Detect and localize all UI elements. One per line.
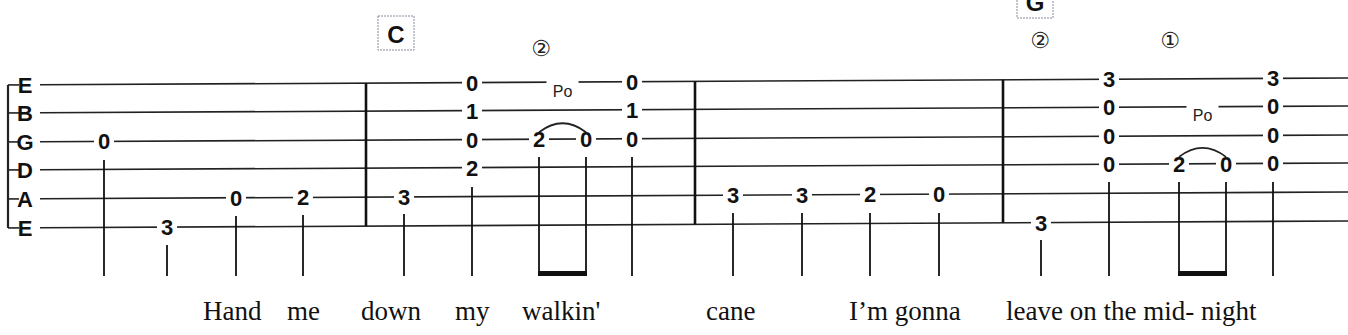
fret-number: 0: [1103, 152, 1115, 177]
fret-number: 1: [626, 98, 638, 123]
fret-number: 0: [466, 128, 478, 153]
fret-number: 3: [1267, 66, 1279, 91]
beam: [538, 271, 587, 276]
beam: [1178, 271, 1227, 276]
pulloff-label: Po: [553, 83, 573, 100]
fret-number: 2: [297, 185, 309, 210]
fret-number: 0: [626, 127, 638, 152]
fret-number: 0: [626, 70, 638, 95]
fret-number: 3: [1035, 211, 1047, 236]
pulloff-label: Po: [1193, 107, 1213, 124]
lyric-word: Hand: [203, 296, 262, 326]
chord-name: C: [387, 21, 404, 48]
fret-number: 0: [230, 186, 242, 211]
string-label: E: [18, 216, 33, 241]
fret-number: 3: [727, 183, 739, 208]
string-label: E: [18, 73, 33, 98]
lyric-word: cane: [706, 296, 755, 326]
fret-number: 1: [466, 99, 478, 124]
lyric-word: I’m gonna: [849, 296, 961, 326]
fret-number: 2: [466, 156, 478, 181]
chord-name: G: [1026, 0, 1045, 16]
fret-number: 0: [98, 129, 110, 154]
fret-number: 2: [1173, 152, 1185, 177]
fret-number: 0: [1220, 152, 1232, 177]
fret-number: 3: [796, 183, 808, 208]
string-number-marker: ②: [531, 36, 551, 61]
string-label: G: [16, 130, 33, 155]
tablature: EBGDAECG②②①03023010220010332033000203000…: [0, 0, 1348, 335]
fret-number: 3: [1103, 67, 1115, 92]
fret-number: 0: [1267, 94, 1279, 119]
string-label: D: [17, 158, 33, 183]
string-label: B: [17, 101, 33, 126]
string-number-marker: ①: [1160, 28, 1180, 53]
string-number-marker: ②: [1030, 28, 1050, 53]
fret-number: 0: [580, 127, 592, 152]
lyric-word: my: [455, 296, 490, 326]
fret-number: 0: [1267, 123, 1279, 148]
string-label: A: [17, 187, 33, 212]
fret-number: 3: [398, 185, 410, 210]
fret-number: 0: [1103, 95, 1115, 120]
lyric-word: walkin': [522, 296, 600, 326]
lyric-word: down: [361, 296, 421, 326]
lyric-word: leave on the mid- night: [1006, 296, 1257, 326]
fret-number: 0: [1103, 124, 1115, 149]
fret-number: 0: [1267, 151, 1279, 176]
fret-number: 2: [864, 182, 876, 207]
lyric-word: me: [287, 296, 320, 326]
fret-number: 0: [466, 71, 478, 96]
fret-number: 0: [933, 182, 945, 207]
fret-number: 2: [533, 127, 545, 152]
fret-number: 3: [161, 215, 173, 240]
